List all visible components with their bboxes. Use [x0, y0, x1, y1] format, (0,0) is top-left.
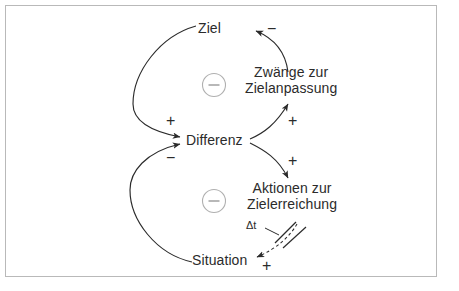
- polarity-aktionen-to-situation: +: [262, 258, 271, 274]
- node-aktionen-zur-zielerreichung: Aktionen zur Zielerreichung: [247, 180, 337, 212]
- polarity-zwaenge-to-ziel: −: [267, 21, 276, 37]
- node-zwaenge-line2: Zielanpassung: [245, 80, 337, 96]
- node-zwaenge-zur-zielanpassung: Zwänge zur Zielanpassung: [245, 64, 337, 96]
- link-situation-to-differenz: [130, 144, 192, 262]
- delay-label-delta-t: Δt: [246, 219, 256, 231]
- loop-marker-lower: [203, 190, 226, 213]
- polarity-ziel-to-differenz: +: [166, 113, 175, 129]
- node-aktionen-line1: Aktionen zur: [247, 180, 337, 196]
- polarity-situation-to-differenz: −: [166, 150, 175, 166]
- delta-t-leader: [265, 228, 279, 235]
- node-differenz: Differenz: [186, 132, 243, 148]
- node-ziel: Ziel: [198, 20, 221, 36]
- polarity-differenz-to-zwaenge: +: [288, 113, 297, 129]
- link-differenz-to-aktionen: [250, 143, 288, 178]
- polarity-differenz-to-aktionen: +: [288, 153, 297, 169]
- diagram-canvas: Ziel Zwänge zur Zielanpassung Differenz …: [0, 0, 459, 291]
- delay-marker: [275, 222, 306, 248]
- node-situation: Situation: [192, 252, 247, 268]
- node-zwaenge-line1: Zwänge zur: [245, 64, 337, 80]
- loop-marker-upper: [203, 74, 226, 97]
- link-differenz-to-zwaenge: [250, 104, 288, 139]
- link-ziel-to-differenz: [133, 26, 196, 137]
- node-aktionen-line2: Zielerreichung: [247, 196, 337, 212]
